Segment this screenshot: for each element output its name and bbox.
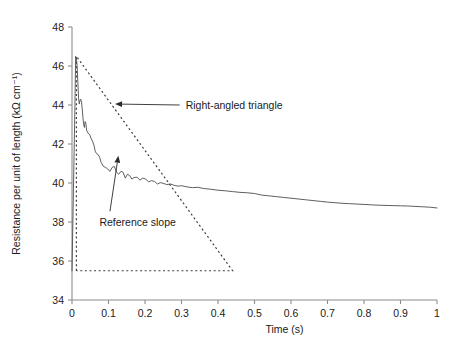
resistance-vs-time-chart: 3436384042444648 00.10.20.30.40.50.60.70… [0, 0, 458, 352]
annotation-group: Right-angled triangleReference slope [99, 99, 282, 228]
x-tick-label: 0.4 [211, 307, 226, 319]
x-tick-label: 0.1 [101, 307, 116, 319]
y-axis: 3436384042444648 [52, 21, 72, 306]
x-tick-label: 0.2 [138, 307, 153, 319]
x-axis-title: Time (s) [265, 323, 303, 335]
series-line [72, 56, 437, 271]
x-tick-label: 0.9 [393, 307, 408, 319]
x-tick-label: 0.5 [247, 307, 262, 319]
x-axis-label: Time (s) [265, 323, 303, 335]
y-tick-label: 48 [52, 21, 64, 33]
y-tick-label: 36 [52, 255, 64, 267]
x-tick-label: 0 [69, 307, 75, 319]
annotation-arrowhead [114, 156, 120, 163]
y-axis-title: Resistance per unit of length (kΩ cm⁻¹) [10, 72, 22, 255]
x-tick-label: 0.8 [357, 307, 372, 319]
annotation-label-reference-slope: Reference slope [99, 216, 176, 228]
reference-triangle-overlay [76, 56, 232, 271]
chart-figure: 3436384042444648 00.10.20.30.40.50.60.70… [0, 0, 458, 352]
y-tick-label: 34 [52, 294, 64, 306]
x-tick-label: 0.7 [320, 307, 335, 319]
x-axis: 00.10.20.30.40.50.60.70.80.91 [69, 300, 440, 319]
y-tick-label: 40 [52, 177, 64, 189]
y-tick-label: 42 [52, 138, 64, 150]
x-tick-label: 0.3 [174, 307, 189, 319]
y-tick-label: 44 [52, 99, 64, 111]
y-axis-label: Resistance per unit of length (kΩ cm⁻¹) [10, 72, 22, 255]
annotation-arrowhead [115, 101, 122, 107]
data-series-group [72, 56, 437, 271]
annotation-label-right-angled-triangle: Right-angled triangle [186, 99, 283, 111]
annotation-leader-line [122, 104, 180, 105]
dashed-right-angled-triangle [76, 56, 232, 271]
y-tick-label: 38 [52, 216, 64, 228]
x-tick-label: 1 [434, 307, 440, 319]
x-tick-label: 0.6 [284, 307, 299, 319]
y-tick-label: 46 [52, 60, 64, 72]
